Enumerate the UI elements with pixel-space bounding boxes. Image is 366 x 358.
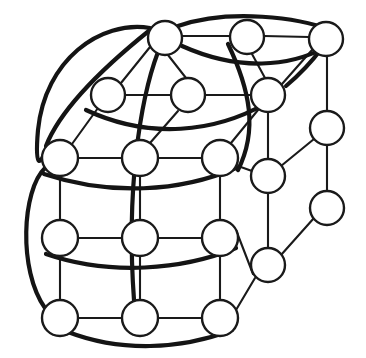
node-top-middle[interactable]: [230, 20, 264, 54]
node-row3-right[interactable]: [202, 140, 238, 176]
graph-diagram: [0, 0, 366, 358]
node-row5-right[interactable]: [202, 300, 238, 336]
node-inner-right-lower[interactable]: [251, 248, 285, 282]
node-row2-middle[interactable]: [171, 78, 205, 112]
node-row4-middle[interactable]: [122, 220, 158, 256]
node-row4-left[interactable]: [42, 220, 78, 256]
edge-n1-n2: [264, 36, 309, 37]
node-outer-right-lower[interactable]: [310, 191, 344, 225]
node-top-right[interactable]: [309, 22, 343, 56]
node-inner-right-upper[interactable]: [251, 159, 285, 193]
node-top-left[interactable]: [148, 21, 182, 55]
node-row3-left[interactable]: [42, 140, 78, 176]
node-row3-middle[interactable]: [122, 140, 158, 176]
node-outer-right-upper[interactable]: [310, 111, 344, 145]
node-row5-middle[interactable]: [122, 300, 158, 336]
node-row2-left[interactable]: [91, 78, 125, 112]
node-row2-right[interactable]: [251, 78, 285, 112]
node-row5-left[interactable]: [42, 300, 78, 336]
graph-canvas: [0, 0, 366, 358]
node-row4-right[interactable]: [202, 220, 238, 256]
